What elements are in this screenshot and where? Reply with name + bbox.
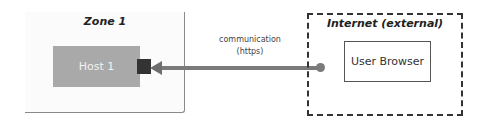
user-browser-label: User Browser bbox=[351, 55, 424, 68]
zone-1-title: Zone 1 bbox=[25, 15, 185, 28]
connection-label-line2: (https) bbox=[200, 46, 300, 58]
connection-label-line1: communication bbox=[200, 34, 300, 46]
host-1-node: Host 1 bbox=[53, 46, 140, 87]
host-1-label: Host 1 bbox=[79, 60, 115, 73]
user-browser-node: User Browser bbox=[344, 41, 431, 82]
connection-label: communication (https) bbox=[200, 34, 300, 58]
connection-line bbox=[160, 66, 322, 70]
internet-title: Internet (external) bbox=[307, 17, 463, 30]
arrowhead-icon bbox=[150, 61, 162, 75]
port-icon bbox=[137, 59, 151, 74]
